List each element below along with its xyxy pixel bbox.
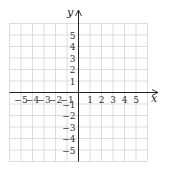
y-tick-label: 1 xyxy=(70,77,76,87)
x-tick-label: 3 xyxy=(110,95,116,105)
y-tick-label: −4 xyxy=(62,134,76,144)
coordinate-plane: −5−4−3−2−112345 54321−1−2−3−4−5 x y xyxy=(0,0,169,180)
x-tick-label: 2 xyxy=(99,95,105,105)
y-tick-label: −3 xyxy=(62,123,76,133)
y-tick-label: −1 xyxy=(62,100,75,110)
y-tick-label: 5 xyxy=(70,31,76,41)
y-axis-label: y xyxy=(66,6,74,19)
y-tick-label: −5 xyxy=(62,146,76,156)
x-axis-label: x xyxy=(151,92,158,105)
x-tick-label: 1 xyxy=(87,95,93,105)
x-tick-label: 4 xyxy=(122,95,128,105)
y-tick-label: 4 xyxy=(70,42,76,52)
y-tick-label: 3 xyxy=(70,54,76,64)
x-tick-label: 5 xyxy=(133,95,139,105)
x-tick-labels: −5−4−3−2−112345 xyxy=(14,95,139,105)
y-tick-label: 2 xyxy=(70,65,76,75)
y-tick-label: −2 xyxy=(62,111,75,121)
